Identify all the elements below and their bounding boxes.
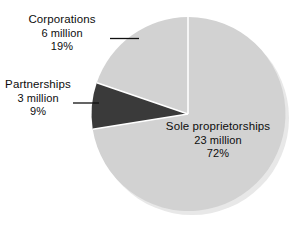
slice-label-partnerships-name: Partnerships: [0, 78, 76, 92]
pie-chart-figure: Corporations 6 million 19% Partnerships …: [0, 0, 301, 228]
slice-label-partnerships: Partnerships 3 million 9%: [0, 78, 76, 118]
slice-label-corporations: Corporations 6 million 19%: [14, 13, 110, 53]
slice-label-sole-proprietorships-percent: 72%: [152, 147, 284, 160]
slice-label-corporations-name: Corporations: [14, 13, 110, 27]
slice-label-partnerships-value: 3 million: [0, 92, 76, 105]
slice-label-corporations-percent: 19%: [14, 40, 110, 53]
slice-label-sole-proprietorships-name: Sole proprietorships: [152, 120, 284, 134]
slice-label-partnerships-percent: 9%: [0, 105, 76, 118]
slice-label-sole-proprietorships: Sole proprietorships 23 million 72%: [152, 120, 284, 160]
slice-label-sole-proprietorships-value: 23 million: [152, 134, 284, 147]
slice-label-corporations-value: 6 million: [14, 27, 110, 40]
